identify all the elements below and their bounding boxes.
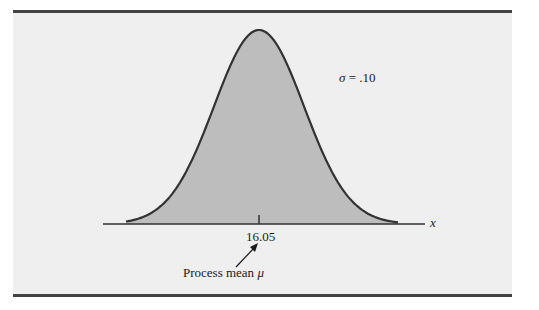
sigma-annotation: σ = .10 xyxy=(339,70,376,86)
process-mean-annotation: Process mean μ xyxy=(183,265,264,281)
normal-distribution-chart xyxy=(0,0,539,310)
x-axis-label: x xyxy=(430,215,436,231)
process-mean-text: Process mean xyxy=(183,265,257,280)
mean-tick-label: 16.05 xyxy=(246,229,275,245)
mean-arrow-shaft xyxy=(236,247,255,267)
curve-area-fill xyxy=(126,30,398,224)
sigma-value: = .10 xyxy=(345,70,375,85)
mu-symbol: μ xyxy=(257,265,264,280)
